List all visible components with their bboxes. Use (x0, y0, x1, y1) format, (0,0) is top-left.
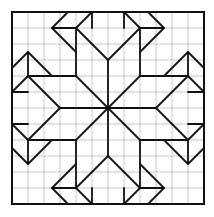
pattern-segment (164, 140, 188, 164)
pattern-segment (188, 124, 204, 140)
pattern-segment (52, 28, 76, 52)
pattern-segment (188, 76, 204, 92)
pattern-segment (124, 12, 140, 28)
pattern-segment (140, 28, 164, 52)
pattern-segment (12, 124, 28, 140)
pattern-segment (76, 12, 92, 28)
pattern-segment (124, 188, 140, 204)
pattern-segment (76, 188, 92, 204)
pattern-segment (28, 52, 52, 76)
pattern-segment (28, 140, 52, 164)
pattern-segment (140, 164, 164, 188)
pattern-segment (12, 76, 28, 92)
pattern-segment (52, 164, 76, 188)
pattern-segment (164, 52, 188, 76)
quilt-pattern-diagram (0, 0, 214, 217)
